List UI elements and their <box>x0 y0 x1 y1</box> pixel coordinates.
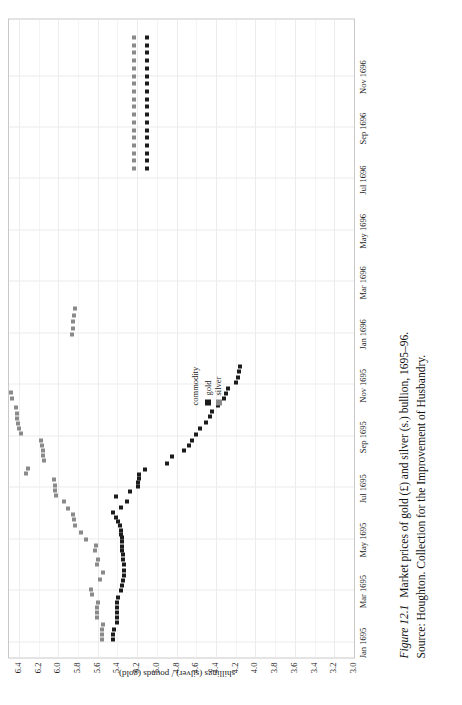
data-point-gold <box>115 610 119 614</box>
data-point-silver <box>52 478 56 482</box>
legend-label-silver: silver <box>213 376 224 395</box>
gridline-vertical <box>9 126 354 127</box>
data-point-gold <box>170 454 174 458</box>
data-point-silver <box>96 557 100 561</box>
data-point-silver <box>132 66 136 70</box>
data-point-silver <box>96 600 100 604</box>
data-point-gold <box>204 420 208 424</box>
data-point-silver <box>132 35 136 39</box>
data-point-silver <box>73 306 77 310</box>
x-tick-label: Sep 1695 <box>358 421 368 453</box>
data-point-silver <box>39 438 43 442</box>
gridline-horizontal <box>39 19 40 657</box>
data-point-silver <box>132 81 136 85</box>
y-tick-label: 3.2 <box>328 662 338 686</box>
x-tick-label: Nov 1695 <box>358 368 368 402</box>
data-point-gold <box>114 515 118 519</box>
data-point-silver <box>132 104 136 108</box>
data-point-gold <box>145 120 149 124</box>
legend-swatch-gold-icon <box>205 399 211 405</box>
gridline-vertical <box>9 589 354 590</box>
data-point-gold <box>111 637 115 641</box>
data-point-gold <box>145 143 149 147</box>
legend-swatch-silver-icon <box>216 399 222 405</box>
data-point-gold <box>145 97 149 101</box>
data-point-silver <box>98 577 102 581</box>
data-point-silver <box>132 43 136 47</box>
data-point-silver <box>15 416 19 420</box>
data-point-gold <box>145 151 149 155</box>
gridline-horizontal <box>275 19 276 657</box>
legend-item-gold[interactable]: gold <box>203 366 214 405</box>
data-point-silver <box>132 135 136 139</box>
data-point-silver <box>14 405 18 409</box>
y-tick-label: 3.0 <box>348 662 358 686</box>
data-point-gold <box>145 112 149 116</box>
data-point-gold <box>121 557 125 561</box>
data-point-gold <box>120 544 124 548</box>
x-tick-label: May 1696 <box>358 214 368 249</box>
gridline-horizontal <box>157 19 158 657</box>
data-point-gold <box>208 414 212 418</box>
gridline-vertical <box>9 332 354 333</box>
legend-item-silver[interactable]: silver <box>213 366 224 405</box>
data-point-gold <box>122 562 126 566</box>
legend-label-gold: gold <box>203 380 214 395</box>
figure-container: 6.46.26.05.85.65.45.25.04.84.64.44.24.03… <box>0 0 462 705</box>
data-point-gold <box>145 89 149 93</box>
figure-caption-text: Market prices of gold (£) and silver (s.… <box>398 331 410 597</box>
data-point-silver <box>95 562 99 566</box>
data-point-silver <box>100 637 104 641</box>
data-point-silver <box>90 592 94 596</box>
data-point-gold <box>210 409 214 413</box>
gridline-horizontal <box>137 19 138 657</box>
gridline-horizontal <box>354 19 355 657</box>
data-point-silver <box>72 517 76 521</box>
data-point-gold <box>145 128 149 132</box>
x-tick-label: Jan 1695 <box>358 627 368 657</box>
caption-main-line: Figure 12.1Market prices of gold (£) and… <box>396 18 413 658</box>
x-tick-label: Jul 1695 <box>358 474 368 503</box>
data-point-gold <box>120 583 124 587</box>
data-point-silver <box>101 622 105 626</box>
data-point-silver <box>132 128 136 132</box>
x-tick-label: Jan 1696 <box>358 319 368 349</box>
data-point-gold <box>238 364 242 368</box>
gridline-horizontal <box>196 19 197 657</box>
data-point-gold <box>121 578 125 582</box>
data-point-silver <box>89 587 93 591</box>
data-point-gold <box>145 74 149 78</box>
data-point-silver <box>132 97 136 101</box>
gridline-vertical <box>9 75 354 76</box>
gridline-horizontal <box>334 19 335 657</box>
x-tick-label: Sep 1696 <box>358 112 368 144</box>
figure-caption: Figure 12.1Market prices of gold (£) and… <box>396 18 429 658</box>
data-point-silver <box>16 421 20 425</box>
x-tick-label: Nov 1696 <box>358 60 368 94</box>
data-point-gold <box>115 620 119 624</box>
data-point-silver <box>94 543 98 547</box>
data-point-gold <box>145 35 149 39</box>
data-point-silver <box>42 458 46 462</box>
y-axis-title: shillings (silver) / pounds (gold) <box>27 668 327 678</box>
data-point-gold <box>137 472 141 476</box>
data-point-gold <box>198 426 202 430</box>
figure-number: Figure 12.1 <box>398 604 410 658</box>
data-point-gold <box>190 438 194 442</box>
x-tick-label: May 1695 <box>358 522 368 557</box>
data-point-gold <box>115 600 119 604</box>
data-point-silver <box>40 443 44 447</box>
data-point-silver <box>70 332 74 336</box>
data-point-gold <box>115 605 119 609</box>
gridline-vertical <box>9 383 354 384</box>
gridline-vertical <box>9 435 354 436</box>
data-point-silver <box>53 488 57 492</box>
data-point-gold <box>237 369 241 373</box>
plot-block: 6.46.26.05.85.65.45.25.04.84.64.44.24.03… <box>0 0 385 705</box>
data-point-silver <box>10 396 14 400</box>
data-point-gold <box>236 375 240 379</box>
data-point-silver <box>132 74 136 78</box>
data-point-gold <box>128 489 132 493</box>
data-point-silver <box>93 548 97 552</box>
data-point-silver <box>132 58 136 62</box>
